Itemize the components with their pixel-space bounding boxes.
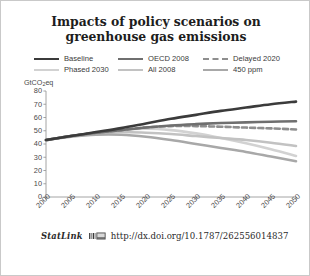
legend-label: All 2008 (148, 64, 175, 75)
y-tick-label: 50 (26, 127, 42, 134)
legend-label: OECD 2008 (148, 53, 189, 64)
y-tick-label: 70 (26, 101, 42, 108)
chart-figure: Impacts of policy scenarios on greenhous… (0, 0, 310, 276)
legend-entry-all-2008[interactable]: All 2008 (118, 64, 203, 75)
legend-label: Delayed 2020 (233, 53, 280, 64)
legend-swatch-delayed-2020 (203, 58, 228, 60)
y-tick-label: 30 (26, 154, 42, 161)
series-lines (46, 102, 296, 162)
legend-swatch-450-ppm (203, 69, 228, 71)
chart-title: Impacts of policy scenarios on greenhous… (15, 15, 297, 44)
statlink-barcode-icon (89, 232, 106, 240)
legend-label: Phased 2030 (64, 64, 109, 75)
legend-entry-450-ppm[interactable]: 450 ppm (203, 64, 288, 75)
legend-entry-phased-2030[interactable]: Phased 2030 (34, 64, 118, 75)
chart-legend: BaselineOECD 2008Delayed 2020Phased 2030… (34, 53, 288, 75)
y-tick-label: 60 (26, 114, 42, 121)
legend-swatch-baseline (34, 58, 59, 60)
statlink-footer: StatLink http://dx.doi.org/10.1787/26255… (41, 230, 288, 242)
y-tick-label: 80 (26, 87, 42, 94)
y-tick-label: 40 (26, 140, 42, 147)
legend-label: 450 ppm (233, 64, 263, 75)
plot-svg (1, 77, 310, 205)
statlink-label: StatLink (41, 231, 83, 241)
legend-swatch-phased-2030 (34, 69, 59, 71)
legend-entry-baseline[interactable]: Baseline (34, 53, 118, 64)
series-line-450-ppm (46, 134, 296, 161)
y-tick-label: 20 (26, 167, 42, 174)
legend-swatch-oecd-2008 (118, 58, 143, 60)
statlink-url: http://dx.doi.org/10.1787/262556014837 (111, 231, 289, 241)
y-tick-label: 10 (26, 180, 42, 187)
legend-entry-delayed-2020[interactable]: Delayed 2020 (203, 53, 288, 64)
legend-entry-oecd-2008[interactable]: OECD 2008 (118, 53, 203, 64)
legend-label: Baseline (64, 53, 93, 64)
legend-swatch-all-2008 (118, 69, 143, 71)
plot-area (1, 77, 310, 205)
